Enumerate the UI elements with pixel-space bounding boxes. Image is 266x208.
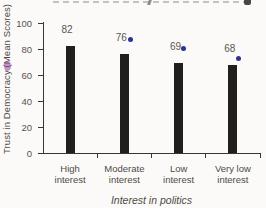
x-category-label: Lowinterest	[151, 163, 207, 185]
x-tick-mark	[205, 153, 206, 158]
y-tick-label: 60	[8, 70, 32, 81]
y-tick-mark	[38, 101, 43, 102]
chart-figure: Trust in Democracy (Mean Scores) 0204060…	[0, 0, 266, 208]
x-tick-mark	[151, 153, 152, 158]
x-tick-mark	[97, 153, 98, 158]
y-tick-mark	[38, 49, 43, 50]
y-tick-label: 40	[8, 96, 32, 107]
x-tick-mark	[260, 153, 261, 158]
bar	[174, 63, 183, 153]
bar	[66, 46, 75, 153]
y-tick-label: 100	[8, 18, 32, 29]
bar-value-label: 82	[54, 24, 80, 35]
y-tick-label: 20	[8, 122, 32, 133]
bar	[228, 65, 237, 153]
x-category-label: Highinterest	[42, 163, 98, 185]
y-tick-label: 80	[8, 44, 32, 55]
x-axis	[38, 153, 261, 154]
bar	[120, 54, 129, 153]
y-tick-label: 0	[8, 148, 32, 159]
y-tick-mark	[38, 75, 43, 76]
x-axis-title: Interest in politics	[43, 194, 260, 206]
x-category-label: Very lowinterest	[205, 163, 261, 185]
cropped-text-fragment	[244, 0, 251, 5]
y-tick-mark	[38, 127, 43, 128]
y-tick-mark	[38, 23, 43, 24]
x-category-label: Moderateinterest	[96, 163, 152, 185]
y-tick-mark	[38, 153, 43, 154]
y-axis	[43, 22, 44, 154]
bar-value-label: 68	[217, 43, 243, 54]
marker-dot	[236, 56, 241, 61]
